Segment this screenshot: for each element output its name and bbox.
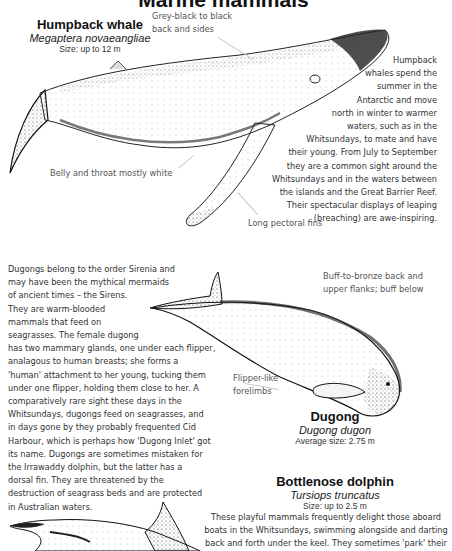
text-line: (breaching) are awe-inspiring. [237,212,437,225]
dugong-size: Average size: 2.75 m [260,436,410,446]
text-line: the Irrawaddy dolphin, but the latter ha… [8,461,248,474]
text-line: whales spend the [237,67,437,80]
label-line: Grey-black to black [152,10,272,23]
text-line: in days gone by they probably frequented… [8,421,248,434]
bottlenose-dolphin-illustration [5,500,205,551]
text-line: dorsal fin. They are threatened by the [8,474,248,487]
dugong-header: Dugong Dugong dugon Average size: 2.75 m [260,409,410,446]
label-line: back and sides [152,23,272,36]
label-line: upper flanks; buff below [323,283,447,296]
text-line: boats in the Whitsundays, swimming along… [196,524,452,537]
label-line: Flipper-like [233,372,278,385]
text-line: they are a common sight around the [237,160,437,173]
text-line: Antarctic and move [237,94,437,107]
dolphin-description: These playful mammals frequently delight… [196,511,452,551]
text-line: back and forth under the keel. They some… [196,537,452,550]
text-line: summer in the [237,80,437,93]
text-line: the islands and the Great Barrier Reef. [237,186,437,199]
text-line: destruction of seagrass beds and are pro… [8,487,248,500]
dolphin-size: Size: up to 2.5 m [250,501,420,511]
label-line: forelimbs [233,385,278,398]
text-line: Harbour, which is perhaps how 'Dugong In… [8,435,248,448]
text-line: Humpback [237,54,437,67]
dolphin-name: Bottlenose dolphin [250,474,420,489]
text-line: their young. From July to September [237,146,437,159]
label-line: Buff-to-bronze back and [323,270,447,283]
dolphin-header: Bottlenose dolphin Tursiops truncatus Si… [250,474,420,511]
text-line: north in winter to warmer [237,107,437,120]
dolphin-scientific-name: Tursiops truncatus [250,489,420,501]
dugong-name: Dugong [260,409,410,424]
humpback-back-label: Grey-black to black back and sides [152,10,272,36]
text-line: Whitsundays and in the waters between [237,173,437,186]
text-line: its name. Dugongs are sometimes mistaken… [8,448,248,461]
humpback-belly-label: Belly and throat mostly white [50,167,172,180]
text-line: Their spectacular displays of leaping [237,199,437,212]
text-line: waters, such as in the [237,120,437,133]
text-line: These playful mammals frequently delight… [196,511,452,524]
humpback-description: Humpback whales spend the summer in the … [237,54,437,226]
dugong-scientific-name: Dugong dugon [260,424,410,436]
dugong-forelimbs-label: Flipper-like forelimbs [233,372,278,398]
text-line: Whitsundays, to mate and have [237,133,437,146]
dugong-back-label: Buff-to-bronze back and upper flanks; bu… [323,270,447,296]
